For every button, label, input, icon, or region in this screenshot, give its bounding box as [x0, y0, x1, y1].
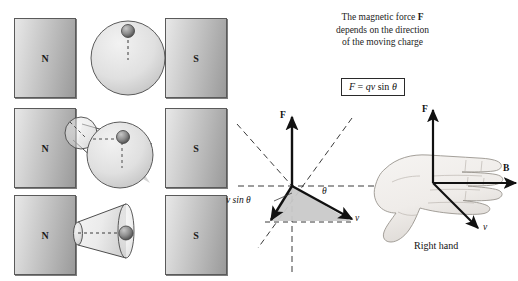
magnet-north-row3: N [14, 195, 76, 275]
magnet-north-row2: N [14, 108, 76, 188]
formula-theta: θ [392, 81, 397, 92]
magnet-south-row2: S [165, 108, 227, 188]
magnet-pole-label: N [15, 230, 75, 241]
caption-line-1-text: The magnetic force [341, 12, 417, 22]
vector-arrow-vsintheta [271, 186, 292, 220]
vsintheta-leader-line [274, 193, 292, 201]
vector-label-velocity: v [355, 213, 359, 223]
charge-path-circle [91, 21, 165, 95]
charge-path-cylinder [65, 117, 153, 188]
vector-diagram-triangle [270, 186, 351, 221]
charge-path-cone [74, 204, 135, 258]
formula-equals: = [355, 81, 366, 92]
vector-label-theta: θ [322, 186, 327, 196]
magnet-pole-label: N [15, 53, 75, 64]
magnet-south-row1: S [165, 18, 227, 98]
caption-force-symbol: F [418, 12, 424, 22]
magnet-pole-label: S [166, 143, 226, 154]
formula-rhs: qv [366, 81, 375, 92]
caption-line-3: of the moving charge [300, 36, 465, 49]
right-hand-label-velocity: v [483, 222, 487, 232]
magnet-pole-label: N [15, 143, 75, 154]
formula-box: F = qv sin θ [341, 78, 405, 96]
figure-root: N S N S N S [0, 0, 518, 281]
right-hand-caption: Right hand [414, 240, 458, 251]
magnet-pole-label: S [166, 53, 226, 64]
magnet-north-row1: N [14, 18, 76, 98]
vector-diagram-axes [237, 118, 378, 275]
caption-line-2: depends on the direction [300, 24, 465, 37]
figure-caption: The magnetic force F depends on the dire… [300, 11, 465, 49]
magnet-pole-label: S [166, 230, 226, 241]
magnet-south-row3: S [165, 195, 227, 275]
vector-label-vsintheta: v sin θ [226, 195, 251, 205]
right-hand-label-field: B [503, 163, 509, 173]
formula-sin: sin [375, 81, 392, 92]
caption-line-1: The magnetic force F [300, 11, 465, 24]
vector-label-force: F [280, 110, 286, 120]
right-hand-label-force: F [422, 104, 428, 114]
